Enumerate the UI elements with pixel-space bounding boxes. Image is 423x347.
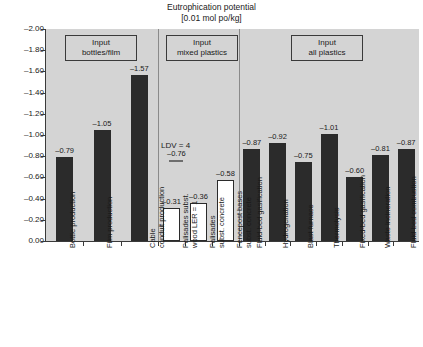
y-axis-tick-mark xyxy=(41,29,46,30)
x-axis-category-label: Blast furnace xyxy=(307,204,316,248)
y-axis-tick-label: –1.20 xyxy=(4,110,44,118)
x-axis-category-label: Film production xyxy=(106,197,115,248)
x-axis-category-line1: Cable xyxy=(148,228,157,248)
group-header-box: Inputmixed plastics xyxy=(166,35,238,61)
chart-title-block: Eutrophication potential [0.01 mol po/kg… xyxy=(0,2,423,24)
x-axis-category-line1: Thermolysis xyxy=(332,208,341,248)
group-header-line1: Input xyxy=(171,38,233,48)
group-header-line2: bottles/film xyxy=(70,48,132,58)
group-header-line1: Input xyxy=(70,38,132,48)
x-axis-tick-mark xyxy=(368,241,369,246)
x-axis-category-line1: Bottle production xyxy=(68,192,77,248)
x-axis-category-label: Waste incineration xyxy=(384,187,393,248)
y-axis-tick-label: –0.40 xyxy=(4,195,44,203)
x-axis-category-label: Palisades subst.wood LER = 1 xyxy=(182,193,199,248)
group-header-line2: mixed plastics xyxy=(171,48,233,58)
x-axis-category-label: Hydrogenation xyxy=(282,199,291,248)
eutrophication-potential-chart: Eutrophication potential [0.01 mol po/kg… xyxy=(0,0,423,347)
y-axis-tick-label: –0.80 xyxy=(4,152,44,160)
x-axis-tick-mark xyxy=(265,241,266,246)
x-axis-category-label: Fencepost basessubst. concrete xyxy=(236,191,253,248)
y-axis-tick-mark xyxy=(41,114,46,115)
y-axis-tick-mark xyxy=(41,156,46,157)
y-axis-tick-mark xyxy=(41,135,46,136)
y-axis-tick-mark xyxy=(41,177,46,178)
bar-value-label: –0.58 xyxy=(210,170,242,178)
x-axis-category-line1: Blast furnace xyxy=(306,204,315,248)
x-axis-category-line1: Film production xyxy=(105,197,114,248)
y-axis-tick-label: 0.00 xyxy=(4,237,44,245)
bar-value-label: –1.01 xyxy=(313,124,345,132)
group-header-box: Inputbottles/film xyxy=(65,35,137,61)
x-axis-category-label: Fluid-bed combustion xyxy=(410,176,419,248)
y-axis-tick-mark xyxy=(41,93,46,94)
chart-title: Eutrophication potential xyxy=(0,2,423,13)
x-axis-tick-mark xyxy=(316,241,317,246)
bar-value-label: –0.87 xyxy=(390,139,422,147)
x-axis-tick-mark xyxy=(121,241,122,246)
x-axis-category-line1: Palisades subst. xyxy=(181,193,190,248)
bar xyxy=(131,75,148,241)
x-axis-category-label: Palisadessubst. concrete xyxy=(209,197,226,248)
group-header-line2: all plastics xyxy=(296,48,358,58)
bar-value-label: –1.05 xyxy=(86,120,118,128)
x-axis-category-line2: subst. concrete xyxy=(217,197,226,248)
y-axis-tick-label: –0.60 xyxy=(4,173,44,181)
x-axis-category-line1: Fixed-bed gasification xyxy=(358,175,367,248)
x-axis-category-line1: Hydrogenation xyxy=(281,199,290,248)
y-axis-tick-mark xyxy=(41,199,46,200)
y-axis-tick-group: –2.00–1.80–1.60–1.40–1.20–1.00–0.80–0.60… xyxy=(0,0,44,347)
bar-value-label: –1.57 xyxy=(123,65,155,73)
y-axis-tick-label: –2.00 xyxy=(4,25,44,33)
y-axis-tick-label: –0.20 xyxy=(4,216,44,224)
x-axis-category-line1: Palisades xyxy=(208,215,217,248)
y-axis-tick-label: –1.60 xyxy=(4,67,44,75)
y-axis-tick-label: –1.00 xyxy=(4,131,44,139)
x-axis-category-label: Bottle production xyxy=(69,192,78,248)
ldv-value-label: –0.76 xyxy=(167,150,186,158)
x-axis-category-label: Cableconduit production xyxy=(149,187,166,248)
x-axis-category-label: Thermolysis xyxy=(333,208,342,248)
bar-value-label: –0.92 xyxy=(262,133,294,141)
bar-value-label: –0.79 xyxy=(49,147,81,155)
y-axis-tick-label: –1.80 xyxy=(4,46,44,54)
x-axis-category-line1: Fencepost bases xyxy=(235,191,244,248)
x-axis-category-line1: Waste incineration xyxy=(383,187,392,248)
x-axis-tick-mark xyxy=(342,241,343,246)
chart-subtitle: [0.01 mol po/kg] xyxy=(0,13,423,24)
group-header-line1: Input xyxy=(296,38,358,48)
x-axis-category-line1: Fluid-bed gasification xyxy=(255,177,264,248)
x-axis-category-label: Fluid-bed gasification xyxy=(256,177,265,248)
y-axis-tick-mark xyxy=(41,220,46,221)
x-axis-category-label: Fixed-bed gasification xyxy=(359,175,368,248)
x-axis-category-line2: wood LER = 1 xyxy=(190,193,199,248)
y-axis-tick-label: –1.40 xyxy=(4,89,44,97)
y-axis-tick-mark xyxy=(41,50,46,51)
x-axis-category-line1: Fluid-bed combustion xyxy=(409,176,418,248)
x-axis-category-line2: subst. concrete xyxy=(244,191,253,248)
group-header-box: Inputall plastics xyxy=(291,35,363,61)
x-axis-tick-mark xyxy=(83,241,84,246)
y-axis-tick-mark xyxy=(41,71,46,72)
bar-value-label: –0.75 xyxy=(287,152,319,160)
x-axis-tick-mark xyxy=(393,241,394,246)
y-axis-tick-mark xyxy=(41,241,46,242)
ldv-marker xyxy=(169,160,183,162)
x-axis-category-line2: conduit production xyxy=(158,187,167,248)
